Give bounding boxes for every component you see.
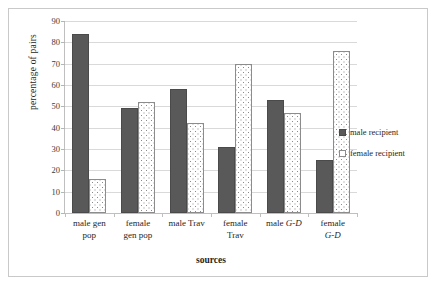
bar-group: [308, 21, 357, 213]
x-axis-tick-label: femaleG-D: [308, 217, 357, 241]
chart-figure: percentage of pairs 0102030405060708090 …: [8, 8, 428, 277]
y-axis-tick-label: 0: [56, 208, 60, 218]
legend-label-male: male recipient: [350, 127, 398, 137]
bar: [89, 179, 106, 213]
x-axis-tick-mark: [114, 213, 115, 217]
bar-group: [65, 21, 114, 213]
y-axis-tick-label: 70: [52, 59, 61, 69]
bar: [316, 160, 333, 213]
x-axis-tick-mark: [308, 213, 309, 217]
bar: [267, 100, 284, 213]
bar-group: [211, 21, 260, 213]
y-axis-tick-label: 10: [52, 187, 61, 197]
y-axis-tick-label: 40: [52, 123, 61, 133]
bar: [138, 102, 155, 213]
plot-area: 0102030405060708090: [65, 21, 357, 213]
bar-group: [114, 21, 163, 213]
x-axis-tick-label: male Trav: [162, 217, 211, 229]
y-axis-tick-label: 50: [52, 101, 61, 111]
x-axis-tick-mark: [260, 213, 261, 217]
x-axis-tick-mark: [211, 213, 212, 217]
x-axis-title: sources: [65, 255, 357, 265]
x-axis-tick-label: femaleTrav: [211, 217, 260, 241]
x-axis-tick-mark: [65, 213, 66, 217]
y-axis-tick-label: 80: [52, 37, 61, 47]
y-axis-tick-label: 30: [52, 144, 61, 154]
bar: [121, 108, 138, 213]
bar: [284, 113, 301, 213]
y-axis-tick-label: 60: [52, 80, 61, 90]
legend-item-female-recipient: female recipient: [339, 148, 425, 158]
bar: [235, 64, 252, 213]
y-axis-tick-label: 90: [52, 16, 61, 26]
legend-item-male-recipient: male recipient: [339, 127, 425, 137]
legend-swatch-male-icon: [339, 129, 346, 136]
x-axis-tick-labels: male genpopfemalegen popmale TravfemaleT…: [65, 217, 357, 257]
chart-legend: male recipient female recipient: [339, 127, 425, 169]
x-axis-tick-label: femalegen pop: [114, 217, 163, 241]
y-axis-title: percentage of pairs: [28, 0, 38, 152]
bar-group: [162, 21, 211, 213]
x-axis-tick-mark: [162, 213, 163, 217]
bar: [170, 89, 187, 213]
x-axis-tick-mark: [357, 213, 358, 217]
legend-swatch-female-icon: [339, 150, 346, 157]
bar: [187, 123, 204, 213]
bar-group: [260, 21, 309, 213]
bar: [218, 147, 235, 213]
y-axis-tick-label: 20: [52, 165, 61, 175]
bar-series-container: [65, 21, 357, 213]
bar: [72, 34, 89, 213]
legend-label-female: female recipient: [350, 148, 405, 158]
x-axis-tick-label: male G-D: [260, 217, 309, 229]
x-axis-tick-label: male genpop: [65, 217, 114, 241]
